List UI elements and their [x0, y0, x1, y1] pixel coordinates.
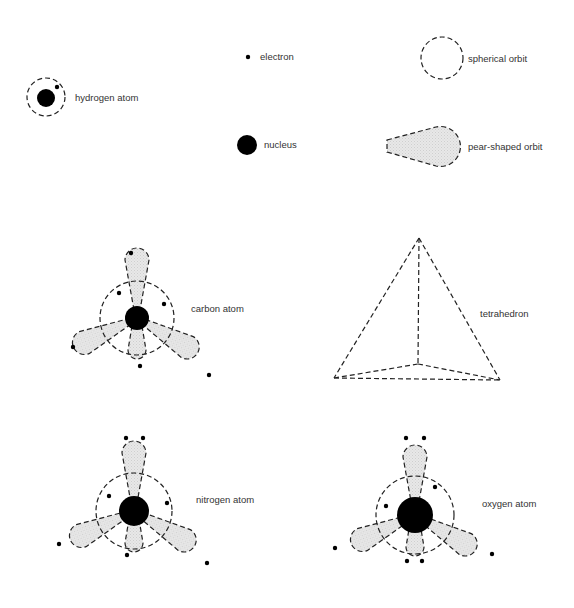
spherical-orbit-legend: spherical orbit	[421, 37, 527, 79]
nitrogen-atom-label: nitrogen atom	[196, 494, 254, 505]
hydrogen-atom-label: hydrogen atom	[75, 92, 138, 103]
tetrahedron	[334, 238, 500, 380]
spherical-orbit-label: spherical orbit	[468, 53, 527, 64]
pear-shaped-orbit-label: pear-shaped orbit	[468, 141, 543, 152]
atomic-orbitals-diagram: hydrogen atom electron spherical orbit n…	[0, 0, 574, 608]
pear-shaped-orbit-legend: pear-shaped orbit	[387, 127, 543, 167]
hydrogen-nucleus-icon	[37, 89, 55, 107]
oxygen-nucleus	[397, 497, 433, 533]
oxygen-atom-label: oxygen atom	[482, 498, 536, 509]
nucleus-icon	[237, 135, 257, 155]
pear-shaped-orbit-icon	[387, 127, 460, 167]
electron-icon	[246, 55, 250, 59]
spherical-orbit-icon	[421, 37, 463, 79]
nucleus-label: nucleus	[264, 139, 297, 150]
oxygen-atom	[333, 436, 494, 563]
electron-label: electron	[260, 51, 294, 62]
tetrahedron-label: tetrahedron	[480, 308, 529, 319]
nucleus-legend: nucleus	[237, 135, 297, 155]
hydrogen-atom-legend: hydrogen atom	[27, 78, 138, 116]
carbon-atom-label: carbon atom	[191, 303, 244, 314]
electron-legend: electron	[246, 51, 294, 62]
nitrogen-atom	[57, 436, 209, 565]
carbon-atom	[68, 248, 211, 377]
carbon-nucleus	[125, 306, 149, 330]
nitrogen-nucleus	[119, 496, 149, 526]
hydrogen-electron-icon	[55, 85, 59, 89]
